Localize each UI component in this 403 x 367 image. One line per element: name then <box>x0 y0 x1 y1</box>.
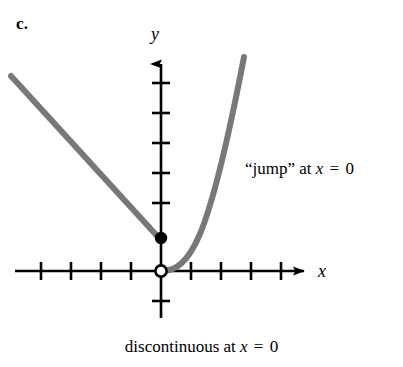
curve-left-branch <box>11 76 159 238</box>
graph-plot-area: y x <box>0 0 403 367</box>
figure-container: c. <box>0 0 403 367</box>
caption-equals: = <box>252 337 266 356</box>
closed-endpoint-marker <box>155 232 167 244</box>
open-endpoint-marker <box>155 265 166 276</box>
figure-caption: discontinuous at x = 0 <box>0 336 403 358</box>
jump-annotation: “jump” at x = 0 <box>245 158 354 180</box>
caption-variable: x <box>240 337 248 356</box>
caption-value: 0 <box>270 337 279 356</box>
y-axis-label: y <box>149 24 159 44</box>
jump-annotation-variable: x <box>316 159 324 178</box>
x-axis-label: x <box>317 261 326 281</box>
jump-annotation-lead: “jump” at <box>245 159 312 178</box>
jump-annotation-equals: = <box>328 159 342 178</box>
caption-lead: discontinuous at <box>125 337 236 356</box>
jump-annotation-value: 0 <box>345 159 354 178</box>
curve-right-branch <box>162 57 244 271</box>
